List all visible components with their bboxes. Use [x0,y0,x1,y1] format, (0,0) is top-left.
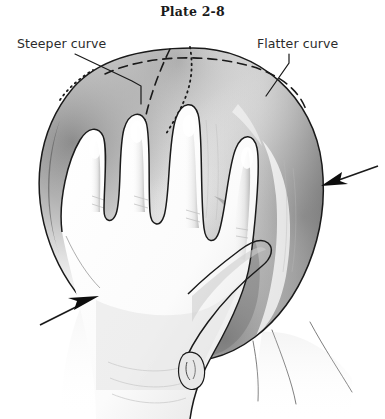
right-pressure-arrow [321,166,378,186]
ear [179,352,205,389]
shoulder-tone [250,332,352,419]
plate-figure: Plate 2-8 Steeper curve Flatter curve [0,0,385,419]
illustration-canvas [0,0,385,419]
